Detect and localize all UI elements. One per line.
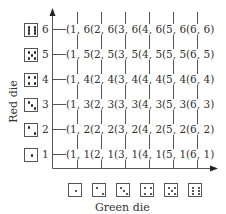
y-tick-label: 4 [42,74,49,85]
outcome-cell: (6, 3) [186,99,214,110]
outcome-cell: (6, 4) [186,74,214,85]
die-face-3-icon [24,98,38,112]
die-face-2-icon [92,183,106,197]
outcome-cell: (6, 1) [186,149,214,160]
die-face-6-icon [188,183,202,197]
outcome-cell: (6, 6) [186,24,214,35]
die-face-3-icon [116,183,130,197]
y-tick-label: 6 [42,24,49,35]
outcome-cell: (6, 2) [186,124,214,135]
y-axis-label: Red die [7,80,20,122]
die-face-4-icon [140,183,154,197]
die-face-1-icon [68,183,82,197]
y-tick-label: 3 [42,99,49,110]
outcome-cell: (6, 5) [186,49,214,60]
x-axis-arrow-icon [210,166,218,172]
die-face-4-icon [24,73,38,87]
die-face-2-icon [24,123,38,137]
die-face-5-icon [24,48,38,62]
y-tick-label: 1 [42,149,49,160]
y-tick-label: 5 [42,49,49,60]
y-tick-label: 2 [42,124,49,135]
x-axis-label: Green die [95,201,150,214]
die-face-6-icon [24,23,38,37]
y-axis-arrow-icon [50,8,56,16]
die-face-1-icon [24,148,38,162]
die-face-5-icon [164,183,178,197]
